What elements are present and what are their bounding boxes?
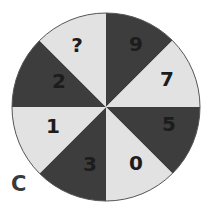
digit-left-top: 2 <box>52 69 66 93</box>
number-wheel: 9 7 5 0 3 1 2 ? <box>0 0 211 218</box>
digit-top-right: 9 <box>129 32 143 56</box>
digit-left-bottom: 1 <box>46 114 60 138</box>
digit-right-top: 7 <box>160 67 174 91</box>
puzzle-label: C <box>11 172 26 196</box>
digit-bottom-right: 0 <box>129 151 143 175</box>
digit-right-bottom: 5 <box>162 112 176 136</box>
question-mark: ? <box>71 33 83 57</box>
digit-bottom-left: 3 <box>83 152 97 176</box>
